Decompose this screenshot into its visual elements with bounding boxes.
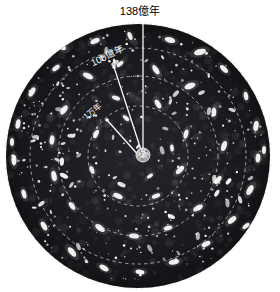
galaxy-ellipse xyxy=(212,107,217,116)
big-bang-core xyxy=(136,148,150,162)
annotation-label-age-universe: 138億年 xyxy=(120,4,160,17)
pointer-dot-ten-billion-years xyxy=(112,65,116,69)
galaxy-ellipse xyxy=(10,138,14,146)
galaxy-ellipse-small xyxy=(196,232,200,240)
cosmic-map-figure: 138億年100億年1万年 xyxy=(0,0,280,292)
pointer-dot-age-universe xyxy=(141,19,145,23)
pointer-dot-ten-thousand-years xyxy=(105,118,109,122)
cosmic-map-svg: 138億年100億年1万年 xyxy=(0,0,280,292)
